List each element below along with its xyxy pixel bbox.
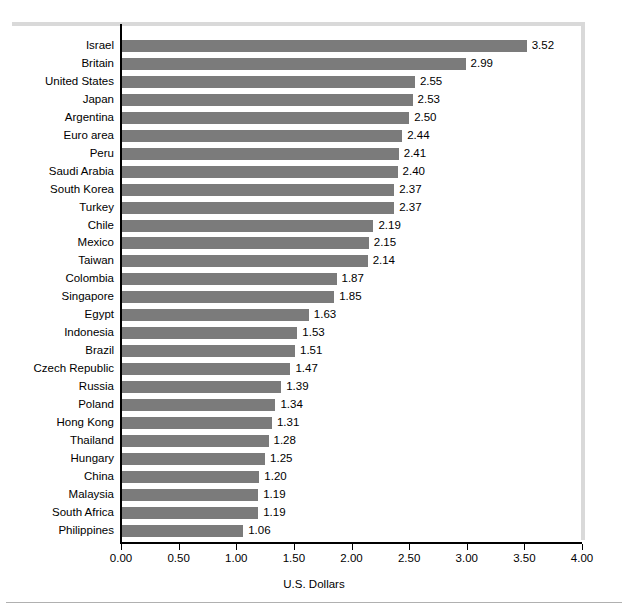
bar-row: United States2.55 [0,74,628,92]
bar-row: Japan2.53 [0,92,628,110]
bar-value-label: 2.37 [399,183,421,196]
bar-row: Thailand1.28 [0,433,628,451]
bar [121,40,527,52]
bar-row: Chile2.19 [0,218,628,236]
category-label: United States [0,75,114,88]
category-label: Saudi Arabia [0,165,114,178]
category-label: Hong Kong [0,416,114,429]
bar-row: Indonesia1.53 [0,325,628,343]
category-label: Czech Republic [0,362,114,375]
category-label: Peru [0,147,114,160]
bar [121,291,334,303]
bar [121,166,398,178]
bar [121,184,394,196]
category-label: Turkey [0,201,114,214]
bottom-divider [6,602,622,603]
bar-value-label: 2.40 [403,165,425,178]
category-label: South Korea [0,183,114,196]
bar-row: Hungary1.25 [0,451,628,469]
bar-value-label: 1.51 [300,344,322,357]
bar-row: China1.20 [0,469,628,487]
bar [121,471,259,483]
bar-value-label: 2.55 [420,75,442,88]
bar-row: Saudi Arabia2.40 [0,164,628,182]
bar [121,399,275,411]
bar [121,345,295,357]
bar [121,327,297,339]
category-label: South Africa [0,506,114,519]
bar-value-label: 1.28 [274,434,296,447]
bar [121,363,290,375]
bar-value-label: 2.53 [418,93,440,106]
category-label: Mexico [0,236,114,249]
category-label: Britain [0,57,114,70]
bar [121,381,281,393]
x-axis-tick-label: 4.00 [559,552,605,565]
category-label: Argentina [0,111,114,124]
bar [121,417,272,429]
x-axis-tick [352,544,353,550]
category-label: Russia [0,380,114,393]
x-axis-tick [236,544,237,550]
bar-row: Argentina2.50 [0,110,628,128]
bar-value-label: 1.63 [314,308,336,321]
bar [121,148,399,160]
bar-value-label: 2.37 [399,201,421,214]
category-label: Taiwan [0,254,114,267]
bar [121,94,413,106]
category-label: Euro area [0,129,114,142]
category-label: Egypt [0,308,114,321]
x-axis-tick-label: 3.50 [501,552,547,565]
bar-row: South Korea2.37 [0,182,628,200]
bar-value-label: 2.15 [374,236,396,249]
bar-value-label: 1.25 [270,452,292,465]
bar-value-label: 1.53 [302,326,324,339]
category-label: Chile [0,219,114,232]
bar [121,237,369,249]
bar [121,453,265,465]
bar-value-label: 1.20 [264,470,286,483]
category-label: Thailand [0,434,114,447]
x-axis-tick-label: 3.00 [444,552,490,565]
bar-row: Russia1.39 [0,379,628,397]
x-axis-tick-label: 2.00 [329,552,375,565]
x-axis-tick-label: 0.00 [98,552,144,565]
x-axis-title: U.S. Dollars [0,578,628,590]
bar [121,309,309,321]
x-axis-tick [582,544,583,550]
bar-row: Britain2.99 [0,56,628,74]
x-axis-tick-label: 0.50 [156,552,202,565]
bar [121,130,402,142]
category-label: Poland [0,398,114,411]
bar-value-label: 1.34 [280,398,302,411]
x-axis-tick [121,544,122,550]
category-label: China [0,470,114,483]
category-label: Singapore [0,290,114,303]
category-label: Israel [0,39,114,52]
x-axis-tick [294,544,295,550]
bar-row: South Africa1.19 [0,505,628,523]
bar [121,489,258,501]
bar-row: Poland1.34 [0,397,628,415]
y-axis-line [120,24,122,543]
bar-row: Singapore1.85 [0,289,628,307]
bar [121,220,373,232]
bar [121,273,337,285]
bar-value-label: 1.19 [263,506,285,519]
bar [121,255,368,267]
x-axis-tick-label: 1.50 [271,552,317,565]
x-axis-tick [179,544,180,550]
bar-value-label: 2.99 [471,57,493,70]
bar [121,525,243,537]
category-label: Colombia [0,272,114,285]
bar-row: Turkey2.37 [0,200,628,218]
bar-value-label: 1.06 [248,524,270,537]
bar-value-label: 1.39 [286,380,308,393]
bar-row: Peru2.41 [0,146,628,164]
bar-value-label: 1.87 [342,272,364,285]
bar-row: Brazil1.51 [0,343,628,361]
bar [121,507,258,519]
bar-value-label: 1.31 [277,416,299,429]
bar [121,435,269,447]
bar [121,112,409,124]
